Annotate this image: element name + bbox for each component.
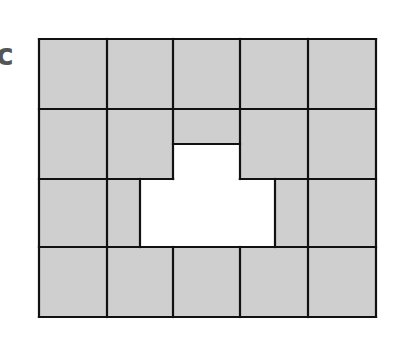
grid-figure <box>0 0 400 344</box>
